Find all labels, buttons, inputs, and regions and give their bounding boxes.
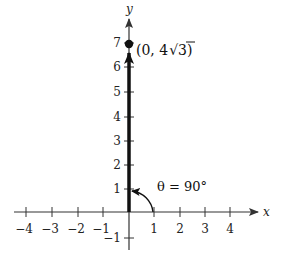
y-tick-label: 6	[113, 60, 121, 74]
x-axis: x −4 −3 −2 −1 1 2 3 4	[14, 205, 270, 236]
angle-arc	[132, 191, 153, 212]
x-tick-labels: −4 −3 −2 −1 1 2 3 4	[15, 222, 234, 236]
y-tick-label: 7	[113, 36, 121, 50]
x-tick-label: 4	[226, 222, 234, 236]
y-tick-label: −1	[103, 231, 121, 245]
terminal-point	[125, 40, 133, 48]
y-axis-label: y	[125, 2, 133, 16]
x-tick-label: −4	[15, 222, 33, 236]
x-tick-label: 1	[150, 222, 158, 236]
x-tick-label: 3	[201, 222, 209, 236]
y-tick-label: 1	[113, 182, 121, 196]
x-tick-label: −3	[41, 222, 59, 236]
y-tick-labels: −1 1 2 3 4 5 6 7	[103, 36, 121, 245]
y-tick-label: 4	[113, 110, 121, 124]
angle-label: θ = 90°	[157, 179, 207, 194]
y-tick-label: 2	[113, 158, 121, 172]
y-tick-label: 3	[113, 134, 121, 148]
point-label: (0, 4√3)	[136, 42, 193, 58]
x-tick-label: −2	[67, 222, 85, 236]
polar-angle-diagram: x −4 −3 −2 −1 1 2 3 4 y	[0, 0, 287, 266]
x-axis-label: x	[263, 205, 270, 219]
x-tick-label: 2	[176, 222, 184, 236]
y-tick-label: 5	[113, 85, 121, 99]
